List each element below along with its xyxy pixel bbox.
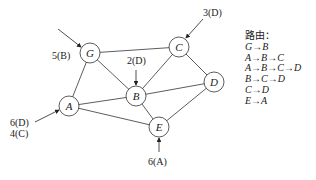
edge-e-d bbox=[159, 82, 214, 127]
input-arrow-a bbox=[35, 110, 59, 122]
input-label-g: 5(B) bbox=[52, 50, 70, 62]
input-label-e: 6(A) bbox=[148, 156, 167, 168]
svg-text:B: B bbox=[133, 90, 140, 102]
routes-panel: 路由： G→B A→B→C A→B→C→D B→C→D C→D E→A bbox=[245, 31, 301, 107]
input-label-a-2: 4(C) bbox=[10, 128, 28, 140]
node-e: E bbox=[149, 117, 169, 137]
edge-b-d bbox=[136, 82, 214, 96]
input-arrow-g bbox=[58, 29, 81, 47]
node-c: C bbox=[169, 37, 189, 57]
edge-g-c bbox=[90, 47, 179, 53]
svg-text:A: A bbox=[65, 100, 73, 112]
svg-text:E: E bbox=[155, 121, 163, 133]
svg-text:C: C bbox=[175, 41, 183, 53]
route-item: G→B bbox=[245, 42, 301, 53]
node-a: A bbox=[59, 96, 79, 116]
input-label-b: 2(D) bbox=[127, 55, 146, 67]
route-item: E→A bbox=[245, 96, 301, 107]
node-b: B bbox=[126, 86, 146, 106]
svg-text:G: G bbox=[86, 47, 94, 59]
svg-text:D: D bbox=[209, 76, 218, 88]
input-arrow-c bbox=[186, 19, 203, 38]
node-g: G bbox=[80, 43, 100, 63]
node-d: D bbox=[204, 72, 224, 92]
input-label-c: 3(D) bbox=[203, 7, 222, 19]
